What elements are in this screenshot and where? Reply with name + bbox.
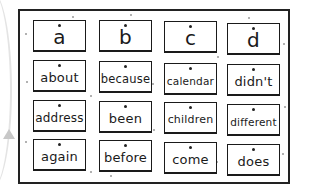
word-card-calendar[interactable]: calendar: [164, 63, 217, 95]
pin-icon: [124, 105, 127, 108]
card-word: about: [40, 66, 79, 85]
pin-icon: [189, 106, 192, 109]
word-wall-board: a b c d about because calendar didn't ad…: [18, 9, 290, 184]
card-word: address: [35, 107, 84, 125]
word-card-come[interactable]: come: [164, 142, 217, 174]
decorative-curve: [0, 0, 12, 190]
word-card-because[interactable]: because: [99, 61, 152, 93]
pin-icon: [189, 25, 192, 28]
pin-icon: [252, 148, 255, 151]
word-card-d[interactable]: d: [227, 23, 280, 55]
triangle-icon: [3, 129, 15, 139]
pin-icon: [124, 24, 127, 27]
card-word: come: [172, 148, 209, 167]
word-card-address[interactable]: address: [33, 100, 86, 132]
card-word: didn't: [234, 70, 272, 89]
pin-icon: [58, 64, 61, 67]
card-word: calendar: [167, 71, 214, 87]
pin-icon: [58, 143, 61, 146]
pin-icon: [58, 24, 61, 27]
pin-icon: [252, 27, 255, 30]
pin-icon: [58, 104, 61, 107]
pin-icon: [124, 144, 127, 147]
word-card-c[interactable]: c: [164, 21, 217, 53]
card-word: because: [101, 68, 151, 86]
card-word: been: [109, 107, 142, 126]
card-word: does: [238, 150, 270, 169]
word-card-different[interactable]: different: [227, 104, 280, 136]
pin-icon: [124, 65, 127, 68]
card-word: before: [104, 146, 147, 165]
word-card-b[interactable]: b: [99, 20, 152, 52]
pin-icon: [189, 146, 192, 149]
pin-icon: [189, 67, 192, 70]
word-card-didnt[interactable]: didn't: [227, 64, 280, 96]
card-word: again: [41, 145, 78, 164]
word-card-again[interactable]: again: [33, 139, 86, 171]
word-card-does[interactable]: does: [227, 144, 280, 176]
pin-icon: [252, 108, 255, 111]
word-card-before[interactable]: before: [99, 140, 152, 172]
pin-icon: [252, 68, 255, 71]
word-card-about[interactable]: about: [33, 60, 86, 92]
card-word: children: [168, 109, 214, 126]
word-card-a[interactable]: a: [33, 20, 86, 52]
card-word: different: [230, 112, 277, 128]
word-card-children[interactable]: children: [164, 102, 217, 134]
word-card-been[interactable]: been: [99, 101, 152, 133]
